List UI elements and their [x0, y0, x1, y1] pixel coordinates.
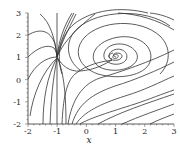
- y-tick-3: 3: [16, 9, 21, 18]
- phase-portrait-chart: 3 2 1 0 -1 -2 -2 -1 0 1 2 3 x: [0, 0, 180, 147]
- x-axis: -2 -1 0 1 2 3 x: [24, 124, 176, 145]
- trajectories-left: [28, 31, 57, 124]
- y-tick-neg1: -1: [13, 98, 21, 107]
- trajectories-middle: [57, 50, 174, 124]
- x-tick-2: 2: [142, 127, 147, 136]
- y-tick-1: 1: [16, 53, 21, 62]
- x-tick-neg1: -1: [53, 127, 61, 136]
- x-tick-3: 3: [171, 127, 176, 136]
- trajectories-bottom: [98, 94, 174, 124]
- x-tick-neg2: -2: [24, 127, 32, 136]
- x-axis-label: x: [86, 135, 91, 145]
- y-tick-2: 2: [16, 31, 21, 40]
- y-tick-0: 0: [16, 76, 21, 85]
- y-axis: 3 2 1 0 -1 -2: [13, 9, 28, 129]
- y-tick-neg2: -2: [13, 120, 21, 129]
- plot-area: [28, 10, 174, 124]
- x-tick-1: 1: [113, 127, 118, 136]
